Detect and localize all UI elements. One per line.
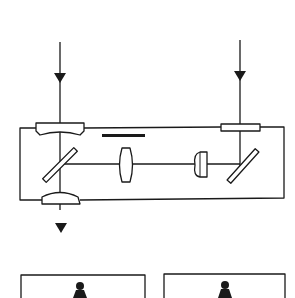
arrow-down-icon xyxy=(54,73,66,83)
filter xyxy=(102,134,145,137)
optical-diagram xyxy=(0,0,295,298)
arrow-down-icon xyxy=(234,71,246,81)
person-icon xyxy=(73,282,87,298)
fold-mirror-right xyxy=(227,149,259,184)
display-panel-right xyxy=(164,274,285,298)
input-beam-right xyxy=(234,40,246,166)
arrow-down-icon xyxy=(55,223,67,233)
plano-convex-lens xyxy=(195,152,207,177)
display-panel-left xyxy=(21,275,145,298)
flat-window xyxy=(221,124,260,131)
person-icon xyxy=(218,281,232,298)
output-lens xyxy=(42,193,80,205)
biconvex-lens xyxy=(120,148,133,182)
